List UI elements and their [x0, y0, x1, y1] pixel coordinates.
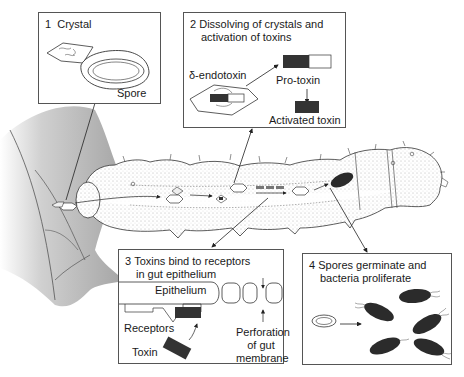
perforation-line3: membrane: [236, 352, 286, 365]
spore-label: Spore: [117, 87, 146, 100]
bacteria-drawing: [303, 254, 451, 364]
perforation-label: Perforation of gut membrane: [236, 326, 286, 365]
bt-infection-diagram: 1 Crystal Spore 2 Dissolving of crystals…: [0, 0, 464, 377]
activation-drawing: [184, 13, 345, 127]
perforation-line1: Perforation: [236, 326, 286, 339]
epithelium-label: Epithelium: [155, 284, 206, 297]
perforation-line2: of gut: [236, 339, 286, 352]
panel-3-receptor-binding: 3 Toxins bind to receptors in gut epithe…: [118, 249, 284, 364]
panel-1-crystal: 1 Crystal Spore: [38, 12, 161, 104]
caterpillar: [76, 141, 448, 238]
receptors-label: Receptors: [124, 322, 174, 335]
panel-4-proliferation: 4 Spores germinate and bacteria prolifer…: [302, 253, 452, 365]
panel-2-activation: 2 Dissolving of crystals and activation …: [183, 12, 346, 128]
toxin-label: Toxin: [132, 346, 158, 359]
